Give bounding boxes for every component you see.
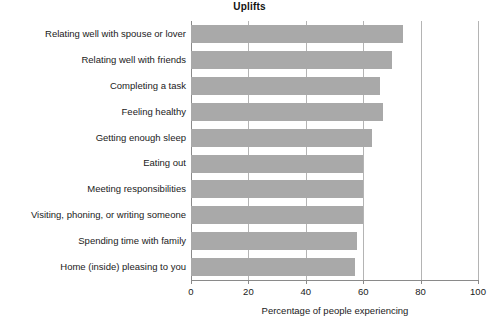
- x-tick-label-60: 60: [343, 286, 383, 297]
- bar: [191, 77, 380, 95]
- category-label: Eating out: [0, 157, 186, 168]
- bar: [191, 155, 363, 173]
- x-tick-label-80: 80: [401, 286, 441, 297]
- x-tick-label-20: 20: [228, 286, 268, 297]
- bar: [191, 232, 357, 250]
- bar-row: [191, 21, 478, 47]
- category-label: Completing a task: [0, 80, 186, 91]
- bar: [191, 51, 392, 69]
- category-label: Relating well with friends: [0, 54, 186, 65]
- x-tick-mark-40: [306, 280, 307, 284]
- x-tick-mark-100: [478, 280, 479, 284]
- category-label: Relating well with spouse or lover: [0, 28, 186, 39]
- chart-title: Uplifts: [0, 1, 499, 12]
- x-axis-line: [191, 280, 479, 281]
- bar-row: [191, 47, 478, 73]
- category-label: Spending time with family: [0, 235, 186, 246]
- category-label: Feeling healthy: [0, 106, 186, 117]
- bar-row: [191, 202, 478, 228]
- bar-chart: Uplifts Relating well with spouse or lov…: [0, 0, 499, 332]
- bar: [191, 129, 372, 147]
- bar: [191, 25, 403, 43]
- bar-row: [191, 99, 478, 125]
- x-tick-mark-20: [248, 280, 249, 284]
- gridline-100: [478, 21, 479, 280]
- bar-row: [191, 176, 478, 202]
- bar: [191, 258, 355, 276]
- bar: [191, 206, 363, 224]
- category-label: Getting enough sleep: [0, 132, 186, 143]
- category-label: Meeting responsibilities: [0, 183, 186, 194]
- x-tick-label-0: 0: [171, 286, 211, 297]
- bar: [191, 180, 363, 198]
- bar-row: [191, 228, 478, 254]
- bar-row: [191, 254, 478, 280]
- x-tick-mark-60: [363, 280, 364, 284]
- x-axis-label: Percentage of people experiencing: [191, 305, 479, 316]
- x-tick-mark-0: [191, 280, 192, 284]
- bar-row: [191, 151, 478, 177]
- category-label: Home (inside) pleasing to you: [0, 261, 186, 272]
- category-label: Visiting, phoning, or writing someone: [0, 209, 186, 220]
- bar: [191, 103, 383, 121]
- bar-row: [191, 125, 478, 151]
- bar-row: [191, 73, 478, 99]
- x-tick-label-40: 40: [286, 286, 326, 297]
- x-tick-mark-80: [421, 280, 422, 284]
- x-tick-label-100: 100: [458, 286, 498, 297]
